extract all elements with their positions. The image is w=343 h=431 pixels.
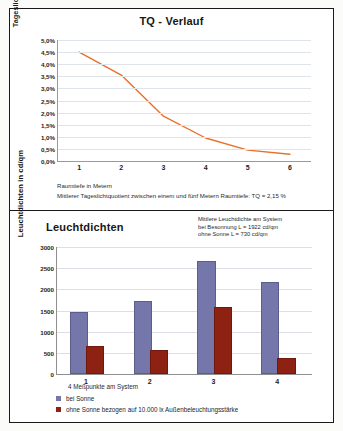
tq-caption-line-1: Raumtiefe in Metern: [57, 181, 317, 191]
ld-y-axis-label: Leuchtdichten in cd/qm: [16, 136, 25, 251]
tq-x-tick-label: 1: [77, 164, 81, 171]
tq-x-tick-label: 6: [288, 164, 292, 171]
tq-x-tick-label: 4: [204, 164, 208, 171]
document-frame: TQ - Verlauf Tageslichtquotient in % 0,0…: [9, 8, 334, 423]
ld-bar: [86, 346, 104, 374]
tq-y-tick-label: 3,5%: [41, 73, 55, 80]
tq-y-tick-label: 2,5%: [41, 97, 55, 104]
tq-gridline: [58, 64, 311, 65]
tq-gridline: [58, 113, 311, 114]
legend-item-bei-sonne: bei Sonne: [56, 395, 238, 402]
tq-gridline: [58, 149, 311, 150]
ld-annotation-line-2: bei Besonnung L = 1922 cd/qm: [198, 224, 316, 232]
tq-gridline: [58, 101, 311, 102]
tq-gridline: [58, 40, 311, 41]
ld-x-tick-label: 3: [212, 378, 216, 385]
tq-verlauf-chart-panel: TQ - Verlauf Tageslichtquotient in % 0,0…: [10, 9, 333, 211]
tq-gridline: [58, 137, 311, 138]
ld-plot-area: 0500100015002000250030001234: [56, 247, 312, 375]
ld-bar-group: [57, 247, 121, 374]
ld-annotation-block: Mittlere Leuchtdichte am System bei Beso…: [198, 216, 316, 239]
ld-y-tick-label: 1500: [40, 307, 54, 314]
legend-swatch-icon-red: [56, 407, 61, 412]
tq-gridline: [58, 76, 311, 77]
tq-y-tick-label: 2,0%: [41, 109, 55, 116]
ld-y-tick-label: 500: [44, 349, 54, 356]
tq-y-tick-label: 4,0%: [41, 61, 55, 68]
tq-plot-area: 0,0%0,5%1,0%1,5%2,0%2,5%3,0%3,5%4,0%4,5%…: [57, 40, 311, 162]
ld-bar-group: [121, 247, 185, 374]
ld-annotation-line-1: Mittlere Leuchtdichte am System: [198, 216, 316, 224]
tq-y-axis-label: Tageslichtquotient in %: [11, 0, 20, 41]
leuchtdichten-chart-panel: Leuchtdichten Mittlere Leuchtdichte am S…: [10, 211, 333, 422]
ld-bar: [214, 307, 232, 374]
tq-caption-line-2: Mittlerer Tageslichtquotient zwischen ei…: [57, 191, 317, 201]
tq-x-tick-label: 2: [119, 164, 123, 171]
ld-x-axis-caption: 4 Meßpunkte am System: [68, 383, 138, 390]
tq-caption-block: Raumtiefe in Metern Mittlerer Tageslicht…: [57, 181, 317, 200]
legend-label-ohne-sonne: ohne Sonne bezogen auf 10.000 lx Außenbe…: [66, 406, 238, 413]
ld-bar: [150, 350, 168, 374]
tq-y-tick-label: 0,0%: [41, 158, 55, 165]
tq-gridline: [58, 88, 311, 89]
legend-label-bei-sonne: bei Sonne: [66, 395, 94, 402]
ld-chart-title: Leuchtdichten: [46, 221, 124, 233]
ld-bar-group: [185, 247, 249, 374]
tq-y-tick-label: 0,5%: [41, 145, 55, 152]
legend-item-ohne-sonne: ohne Sonne bezogen auf 10.000 lx Außenbe…: [56, 406, 238, 413]
tq-gridline: [58, 125, 311, 126]
ld-x-tick-label: 2: [148, 378, 152, 385]
tq-y-tick-label: 5,0%: [41, 37, 55, 44]
tq-y-tick-label: 1,5%: [41, 121, 55, 128]
ld-y-tick-label: 1000: [40, 328, 54, 335]
ld-y-tick-label: 0: [51, 371, 54, 378]
tq-y-tick-label: 1,0%: [41, 133, 55, 140]
screenshot-root: TQ - Verlauf Tageslichtquotient in % 0,0…: [0, 0, 343, 431]
tq-chart-title: TQ - Verlauf: [10, 15, 333, 27]
ld-y-tick-label: 3000: [40, 244, 54, 251]
tq-y-tick-label: 3,0%: [41, 85, 55, 92]
tq-y-tick-label: 4,5%: [41, 49, 55, 56]
ld-bar: [277, 358, 295, 374]
ld-x-tick-label: 4: [275, 378, 279, 385]
tq-x-tick-label: 3: [161, 164, 165, 171]
legend-swatch-icon-blue: [56, 396, 61, 401]
ld-bar-group: [248, 247, 312, 374]
tq-x-tick-label: 5: [246, 164, 250, 171]
ld-legend: bei Sonne ohne Sonne bezogen auf 10.000 …: [56, 395, 238, 416]
tq-gridline: [58, 52, 311, 53]
ld-y-tick-label: 2500: [40, 265, 54, 272]
ld-annotation-line-3: ohne Sonne L = 730 cd/qm: [198, 231, 316, 239]
ld-y-tick-label: 2000: [40, 286, 54, 293]
